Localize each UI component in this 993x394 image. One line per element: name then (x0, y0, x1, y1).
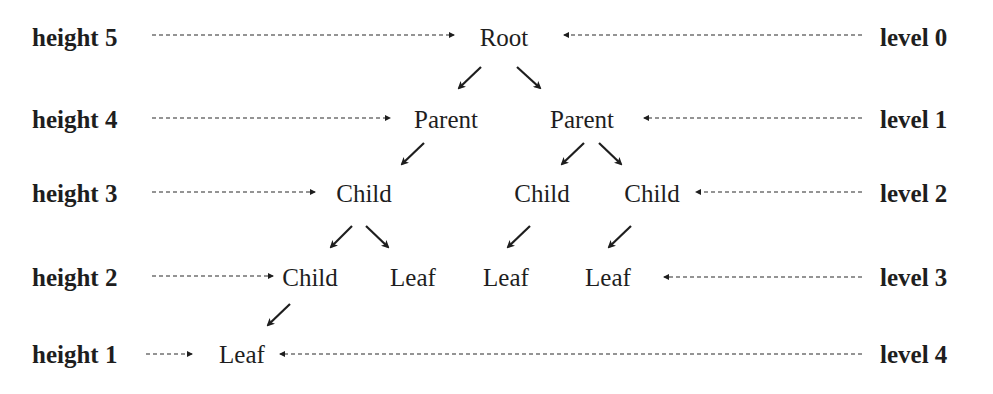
edge-arrow-icon (402, 143, 424, 164)
edge-arrow-icon (508, 226, 530, 247)
edge-arrow-icon (562, 143, 584, 164)
edge-arrow-icon (459, 67, 481, 88)
edge-arrow-icon (599, 143, 621, 164)
edge-arrow-icon (268, 304, 290, 325)
edge-arrow-icon (366, 226, 388, 247)
edge-arrow-icon (609, 226, 631, 247)
diagram-connectors (0, 0, 993, 394)
edge-arrow-icon (331, 226, 352, 247)
edge-arrow-icon (517, 67, 540, 88)
